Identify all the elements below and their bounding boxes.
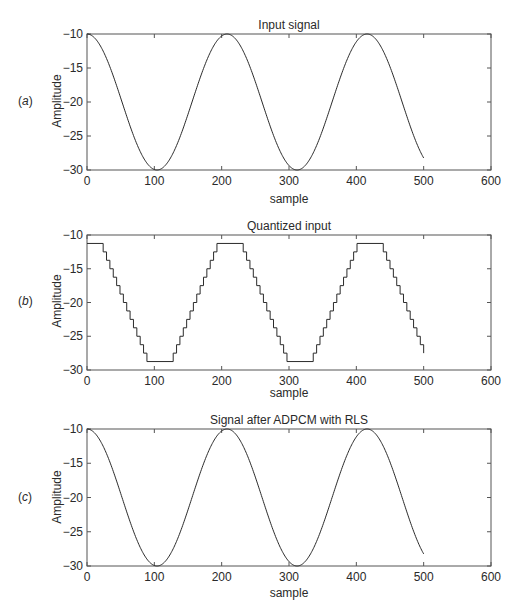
x-tick-label: 200 xyxy=(212,570,232,584)
plot-area: 0100200300400500600−10−15−20−25−30 xyxy=(0,0,513,611)
y-tick-label: −15 xyxy=(63,456,84,470)
y-tick-label: −20 xyxy=(63,491,84,505)
panel-c: Signal after ADPCM with RLS (c) Amplitud… xyxy=(0,0,513,611)
x-tick-label: 400 xyxy=(346,570,366,584)
x-tick-label: 0 xyxy=(84,570,91,584)
x-tick-label: 100 xyxy=(144,570,164,584)
x-axis-label: sample xyxy=(87,586,491,600)
axes-frame xyxy=(87,429,491,566)
y-tick-label: −10 xyxy=(63,422,84,436)
x-tick-label: 500 xyxy=(414,570,434,584)
series-line xyxy=(87,429,424,566)
x-tick-label: 300 xyxy=(279,570,299,584)
y-tick-label: −30 xyxy=(63,559,84,573)
x-tick-label: 600 xyxy=(481,570,501,584)
y-tick-label: −25 xyxy=(63,525,84,539)
